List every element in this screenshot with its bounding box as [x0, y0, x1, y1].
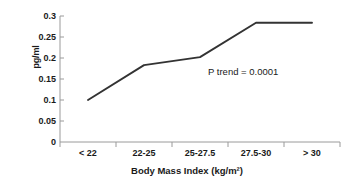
x-tick-label-2: 25-27.5 — [172, 148, 228, 158]
x-axis-label: Body Mass Index (kg/m²) — [0, 165, 346, 176]
x-tick-label-1: 22-25 — [116, 148, 172, 158]
x-tick-label-3: 27.5-30 — [228, 148, 284, 158]
p-trend-annotation: P trend = 0.0001 — [208, 66, 278, 77]
x-tick-label-4: > 30 — [284, 148, 340, 158]
chart-container: pg/ml 0.3 0.25 0.2 0.15 0.1 0.05 0 < 22 … — [0, 0, 346, 183]
data-line-series — [88, 23, 312, 100]
x-tick-label-0: < 22 — [60, 148, 116, 158]
